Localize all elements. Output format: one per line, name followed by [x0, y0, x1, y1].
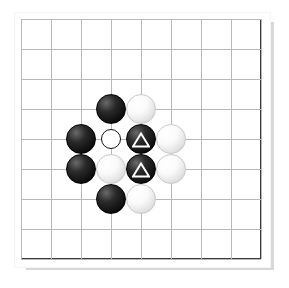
stone-black-c5[interactable]: [66, 124, 96, 154]
grid-line-horizontal-1: [21, 19, 261, 20]
stone-white-f5[interactable]: [156, 124, 186, 154]
stone-black-e6-triangle[interactable]: [126, 154, 156, 184]
stone-black-d7[interactable]: [96, 184, 126, 214]
stone-white-f6[interactable]: [156, 154, 186, 184]
stone-black-c6[interactable]: [66, 154, 96, 184]
triangle-marker: [132, 162, 150, 178]
stone-black-e5-triangle[interactable]: [126, 124, 156, 154]
grid-line-horizontal-2: [21, 49, 261, 50]
stone-white-d6[interactable]: [96, 154, 126, 184]
go-diagram: [0, 0, 289, 288]
go-board-grid[interactable]: [21, 19, 261, 259]
grid-line-horizontal-8: [21, 229, 261, 230]
grid-line-vertical-9: [261, 19, 262, 259]
stone-white-e7[interactable]: [126, 184, 156, 214]
circle-marker-d5[interactable]: [101, 129, 121, 149]
grid-line-horizontal-9: [21, 259, 261, 260]
stone-white-e4[interactable]: [126, 94, 156, 124]
grid-line-horizontal-3: [21, 79, 261, 80]
stone-black-d4[interactable]: [96, 94, 126, 124]
triangle-marker: [132, 132, 150, 148]
